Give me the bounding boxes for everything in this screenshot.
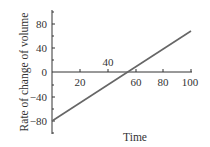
x-tick-label-80: 80 [158, 76, 170, 88]
y-tick-label-neg80: −80 [30, 115, 48, 127]
x-tick-label-20: 20 [75, 76, 87, 88]
y-tick-label-0: 0 [42, 66, 48, 78]
x-tick-label-40: 40 [103, 56, 115, 68]
y-axis-title: Rate of change of volume [18, 13, 31, 132]
x-axis-title: Time [123, 131, 147, 143]
y-tick-label-40: 40 [36, 42, 48, 54]
y-tick-label-80: 80 [36, 18, 48, 30]
data-line [52, 31, 191, 121]
x-tick-label-100: 100 [182, 76, 199, 88]
chart-canvas: 80 40 0 −40 −80 20 40 60 80 100 Time Rat… [0, 0, 210, 147]
y-tick-label-neg40: −40 [30, 91, 48, 103]
x-tick-label-60: 60 [131, 76, 143, 88]
